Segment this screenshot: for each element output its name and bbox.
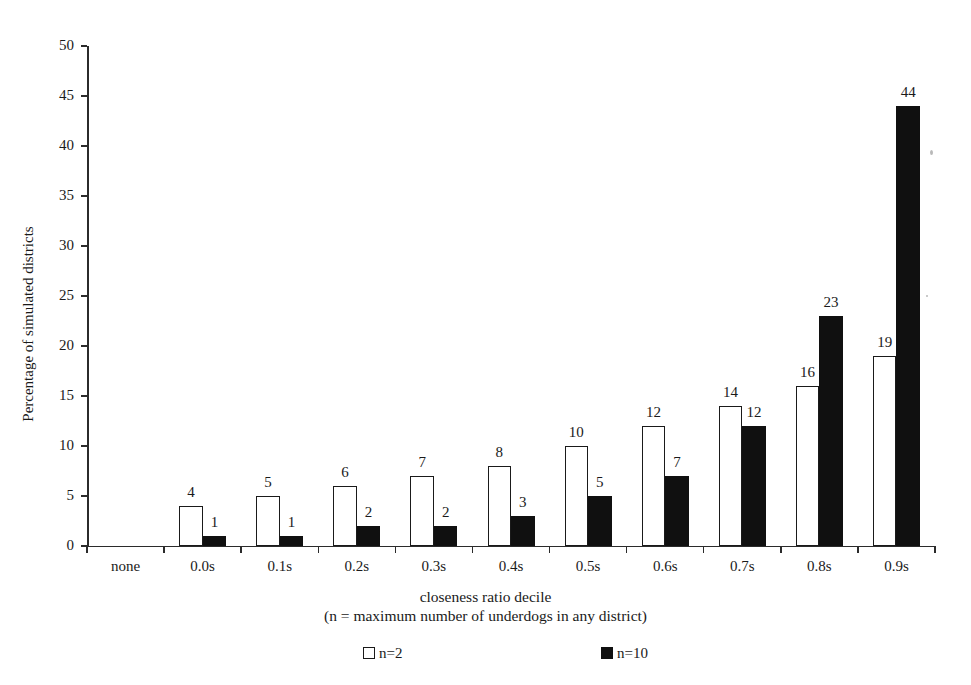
y-axis-tick <box>81 445 87 446</box>
scan-speck <box>930 150 933 155</box>
bar-value-label-2-series-0: 5 <box>238 475 298 490</box>
y-axis-tick <box>81 395 87 396</box>
bar-value-label-5-series-1: 3 <box>493 495 553 510</box>
bar-1-series-1 <box>203 536 227 546</box>
y-axis-line <box>87 46 89 546</box>
y-axis-tick <box>81 145 87 146</box>
bar-3-series-1 <box>357 526 381 546</box>
bar-value-label-10-series-1: 44 <box>878 85 938 100</box>
bar-value-label-3-series-0: 6 <box>315 465 375 480</box>
chart-legend: n=2n=10 <box>0 645 971 669</box>
y-axis-tick <box>81 195 87 196</box>
x-axis-tick-label-10: 0.9s <box>851 558 941 575</box>
x-axis-tick <box>86 546 87 553</box>
x-axis-tick <box>395 546 396 553</box>
bar-value-label-2-series-1: 1 <box>261 515 321 530</box>
y-axis-tick-label: 10 <box>48 438 74 453</box>
x-axis-tick <box>857 546 858 553</box>
bar-value-label-1-series-1: 1 <box>184 515 244 530</box>
bar-8-series-1 <box>742 426 766 546</box>
x-axis-tick <box>163 546 164 553</box>
bar-8-series-0 <box>719 406 743 546</box>
x-axis-tick <box>549 546 550 553</box>
y-axis-tick-label: 25 <box>48 288 74 303</box>
bar-6-series-0 <box>565 446 589 546</box>
legend-swatch-icon <box>363 647 375 659</box>
y-axis-tick-label: 0 <box>48 538 74 553</box>
bar-value-label-10-series-0: 19 <box>855 335 915 350</box>
x-axis-tick <box>318 546 319 553</box>
y-axis-tick <box>81 245 87 246</box>
scan-speck <box>926 295 928 297</box>
y-axis-tick <box>81 345 87 346</box>
y-axis-tick-label: 20 <box>48 338 74 353</box>
x-axis-tick <box>626 546 627 553</box>
x-axis-title: closeness ratio decile <box>0 587 971 607</box>
y-axis-tick-label: 5 <box>48 488 74 503</box>
y-axis-tick-label: 40 <box>48 138 74 153</box>
legend-label: n=2 <box>379 645 402 661</box>
bar-7-series-1 <box>665 476 689 546</box>
bar-value-label-1-series-0: 4 <box>161 485 221 500</box>
bar-value-label-9-series-0: 16 <box>778 365 838 380</box>
bar-2-series-1 <box>280 536 304 546</box>
bar-value-label-7-series-0: 12 <box>623 405 683 420</box>
legend-item-n10[interactable]: n=10 <box>601 645 648 661</box>
bar-value-label-6-series-0: 10 <box>546 425 606 440</box>
bar-6-series-1 <box>588 496 612 546</box>
x-axis-tick <box>472 546 473 553</box>
bar-value-label-6-series-1: 5 <box>570 475 630 490</box>
y-axis-tick-label: 15 <box>48 388 74 403</box>
bar-9-series-0 <box>796 386 820 546</box>
x-axis-tick <box>780 546 781 553</box>
bar-value-label-8-series-0: 14 <box>701 385 761 400</box>
bar-value-label-7-series-1: 7 <box>647 455 707 470</box>
bar-chart: 05101520253035404550 Percentage of simul… <box>0 0 971 685</box>
y-axis-tick <box>81 95 87 96</box>
x-axis-tick <box>240 546 241 553</box>
legend-label: n=10 <box>617 645 648 661</box>
y-axis-tick-label: 30 <box>48 238 74 253</box>
y-axis-tick <box>81 45 87 46</box>
bar-4-series-1 <box>434 526 458 546</box>
x-axis-tick <box>934 546 935 553</box>
bar-5-series-1 <box>511 516 535 546</box>
y-axis-tick-label: 50 <box>48 38 74 53</box>
x-axis-subtitle-note: (n = maximum number of underdogs in any … <box>0 606 971 626</box>
legend-swatch-icon <box>601 647 613 659</box>
y-axis-tick-label: 35 <box>48 188 74 203</box>
y-axis-tick <box>81 295 87 296</box>
x-axis-tick <box>703 546 704 553</box>
bar-value-label-3-series-1: 2 <box>339 505 399 520</box>
legend-item-n2[interactable]: n=2 <box>363 645 402 661</box>
bar-value-label-5-series-0: 8 <box>469 445 529 460</box>
bar-value-label-4-series-0: 7 <box>392 455 452 470</box>
bar-9-series-1 <box>819 316 843 546</box>
bar-10-series-1 <box>896 106 920 546</box>
bar-value-label-8-series-1: 12 <box>724 405 784 420</box>
y-axis-title: Percentage of simulated districts <box>20 159 36 489</box>
bar-value-label-9-series-1: 23 <box>801 295 861 310</box>
y-axis-tick-label: 45 <box>48 88 74 103</box>
bar-value-label-4-series-1: 2 <box>416 505 476 520</box>
y-axis-tick <box>81 495 87 496</box>
bar-10-series-0 <box>873 356 897 546</box>
bar-7-series-0 <box>642 426 666 546</box>
